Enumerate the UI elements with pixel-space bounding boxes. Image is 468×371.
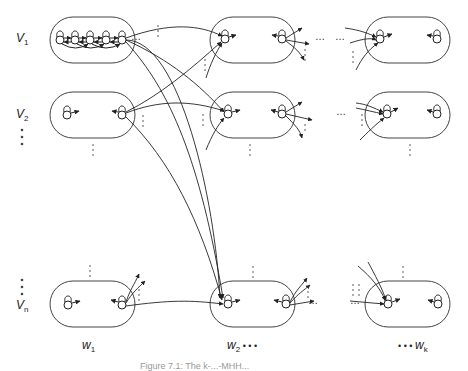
column-label-wk: • • • wk bbox=[398, 338, 428, 354]
diagram-canvas bbox=[0, 0, 468, 371]
ellipsis-v2: … bbox=[336, 106, 347, 117]
v1-w1-chain bbox=[56, 31, 126, 48]
ellipsis-v1-b: … bbox=[315, 31, 326, 42]
ellipsis-vn-b: … bbox=[350, 295, 361, 306]
ellipsis-v1-a: … bbox=[131, 31, 142, 42]
column-label-w2: w2 • • • bbox=[227, 338, 257, 354]
figure-caption: Figure 7.1: The k-...-MHH... bbox=[140, 361, 249, 371]
row-label-v2: V2 bbox=[16, 107, 28, 123]
column-label-w1: w1 bbox=[82, 338, 95, 354]
row-label-vn: Vn bbox=[16, 298, 28, 314]
ellipsis-v1-c: … bbox=[335, 31, 346, 42]
ellipsis-vn-a: … bbox=[308, 295, 319, 306]
row-label-v1: V1 bbox=[16, 31, 28, 47]
